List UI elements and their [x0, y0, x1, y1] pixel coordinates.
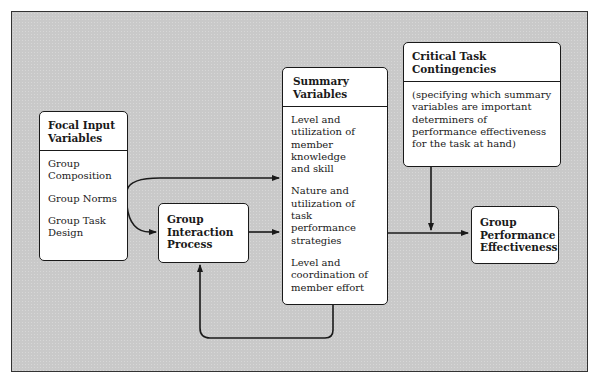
list-item: Group Composition	[48, 158, 119, 183]
focal-input-variables-box: Focal Input Variables Group Composition …	[39, 111, 128, 261]
arrow-focal-to-summary	[127, 178, 279, 190]
list-item: Group Task Design	[48, 215, 119, 240]
group-interaction-process-box: Group Interaction Process	[158, 203, 249, 263]
critical-task-contingencies-box: Critical Task Contingencies (specifying …	[403, 42, 561, 167]
box-body: Level and utilization of member knowledg…	[283, 107, 387, 301]
box-title: Group Interaction Process	[159, 204, 248, 260]
list-item: Nature and utilization of task performan…	[291, 185, 379, 246]
box-title: Group Performance Effectiveness	[472, 207, 558, 263]
group-performance-effectiveness-box: Group Performance Effectiveness	[471, 206, 559, 264]
box-body: (specifying which summary variables are …	[404, 82, 560, 157]
list-item: Group Norms	[48, 193, 119, 205]
list-item: Level and utilization of member knowledg…	[291, 114, 379, 175]
summary-variables-box: Summary Variables Level and utilization …	[282, 67, 388, 305]
box-title: Summary Variables	[283, 68, 387, 107]
box-title: Critical Task Contingencies	[404, 43, 560, 82]
list-item: Level and coordination of member effort	[291, 257, 379, 294]
box-body: Group Composition Group Norms Group Task…	[40, 151, 127, 246]
arrow-focal-to-interaction	[127, 206, 156, 232]
box-title: Focal Input Variables	[40, 112, 127, 151]
